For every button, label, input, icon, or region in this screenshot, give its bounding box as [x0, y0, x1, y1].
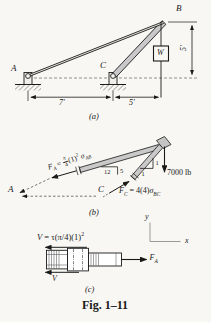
force-c-subscript: C [124, 191, 128, 197]
point-b-label: B [176, 4, 182, 13]
part-c-caption: (c) [85, 285, 94, 294]
pin-c [111, 74, 116, 79]
force-c-equals: = 4(4) [130, 186, 150, 195]
pin-assembly [47, 248, 122, 271]
shear-eq-body: = τ(π/4)(1) [44, 232, 81, 242]
line-of-action-cb [103, 193, 110, 197]
point-c-label: C [100, 61, 106, 70]
slope-ab-rise-label: 5 [120, 168, 123, 175]
force-a-subscript: A [52, 165, 57, 172]
force-a-equals: = [56, 159, 63, 169]
dim-cb-label: 5′ [129, 99, 135, 107]
dimension-spans [28, 91, 159, 102]
dim-ac-label: 7′ [59, 99, 65, 107]
dim-height-label: 5′ [180, 45, 188, 51]
weight-label: W [157, 49, 164, 57]
part-a-caption: (a) [89, 112, 99, 121]
point-c2-label: C [98, 185, 104, 194]
pin-a [26, 74, 31, 79]
point-a-label: A [11, 64, 17, 73]
rod-ab [29, 23, 164, 76]
figure-1-11: A C B W 7′ 5′ 5′ (a) A C 7000 lb 12 5 1 … [0, 0, 211, 322]
slope-cb-rise-label: 1 [156, 160, 159, 167]
applied-force-subscript: A [154, 258, 157, 264]
load-label: 7000 lb [167, 169, 191, 177]
axis-y-label: y [145, 213, 149, 221]
force-a-exponent: 2 [75, 151, 79, 157]
point-a2-label: A [8, 185, 14, 194]
slope-cb-run-label: 1 [142, 171, 145, 178]
applied-force-label: FA [150, 254, 158, 262]
line-of-action-ab [20, 179, 50, 193]
shear-equation: V = τ(π/4)(1)2 [37, 233, 84, 242]
force-a-arrow [52, 171, 77, 178]
part-c-diagram [46, 223, 181, 273]
pin-collar [68, 248, 89, 271]
slope-ab-run-label: 12 [104, 169, 111, 176]
force-c-equation: FC = 4(4)σBC [119, 187, 160, 195]
ground-a [15, 85, 41, 91]
sigma-bc-subscript: BC [153, 191, 160, 197]
shear-eq-exponent: 2 [81, 231, 84, 237]
ground-c [100, 85, 126, 91]
shear-bottom-label: V [52, 275, 57, 283]
figure-caption: Fig. 1–11 [60, 299, 150, 311]
part-b-caption: (b) [89, 208, 99, 217]
sigma-ab-subscript: AB [84, 153, 92, 161]
shear-v-symbol: V [37, 232, 42, 242]
coordinate-axes [150, 223, 181, 242]
axis-x-label: x [185, 237, 189, 245]
